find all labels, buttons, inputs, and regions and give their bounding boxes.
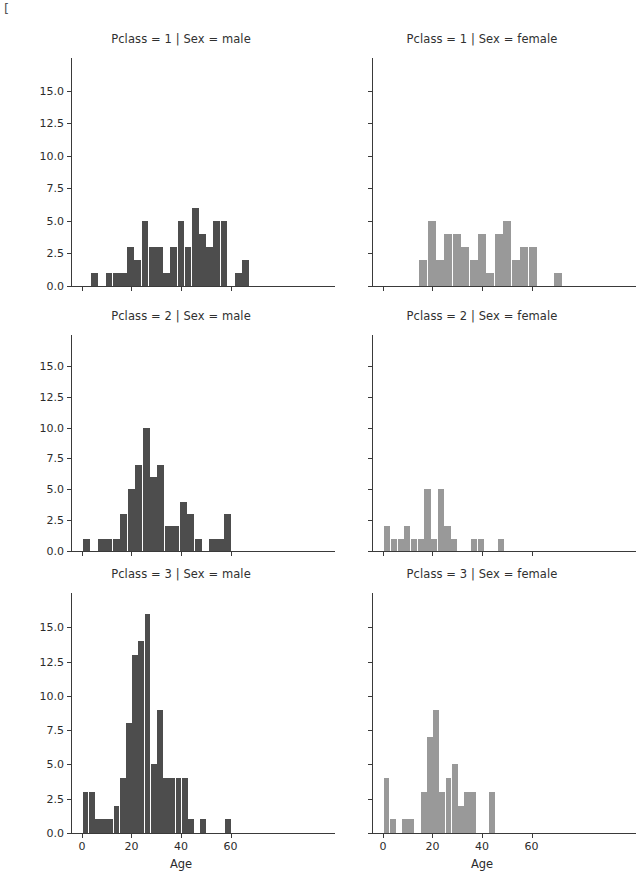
histogram-bar xyxy=(213,221,220,286)
histogram-bar xyxy=(529,247,537,286)
y-tick-mark xyxy=(368,286,373,287)
histogram-bar xyxy=(390,819,396,833)
y-tick-label: 5.0 xyxy=(47,214,65,227)
histogram-bar xyxy=(235,273,242,286)
subplot-pclass3-male: Pclass = 3 | Sex = male0.02.55.07.510.01… xyxy=(72,593,290,833)
y-tick-mark xyxy=(368,458,373,459)
x-tick-mark xyxy=(432,833,433,838)
histogram-bar xyxy=(478,539,484,551)
y-tick-mark xyxy=(368,520,373,521)
plot-area xyxy=(373,593,591,833)
histogram-bar xyxy=(402,819,408,833)
plot-area xyxy=(72,335,290,551)
x-tick-mark xyxy=(131,551,132,556)
y-tick-label: 15.0 xyxy=(40,84,65,97)
x-tick-mark xyxy=(383,286,384,291)
histogram-bar xyxy=(478,234,486,286)
x-tick-mark xyxy=(131,833,132,838)
plot-area xyxy=(72,593,290,833)
histogram-bar xyxy=(145,614,151,833)
x-tick-mark xyxy=(482,551,483,556)
histogram-bar xyxy=(424,489,430,551)
y-tick-mark xyxy=(67,833,72,834)
histogram-bar xyxy=(135,465,142,551)
x-tick-mark xyxy=(432,551,433,556)
y-tick-mark xyxy=(67,428,72,429)
x-tick-mark xyxy=(181,286,182,291)
histogram-bar xyxy=(149,247,156,286)
y-tick-mark xyxy=(67,366,72,367)
y-axis-spine xyxy=(372,593,373,833)
plot-area xyxy=(373,335,591,551)
y-tick-label: 5.0 xyxy=(47,483,65,496)
histogram-bar xyxy=(151,764,157,833)
x-tick-mark xyxy=(383,551,384,556)
y-tick-mark xyxy=(67,458,72,459)
histogram-bar xyxy=(470,260,478,286)
histogram-bar xyxy=(489,792,495,833)
histogram-bar xyxy=(471,539,477,551)
x-tick-mark xyxy=(482,833,483,838)
histogram-bar xyxy=(453,234,461,286)
histogram-bar xyxy=(113,273,120,286)
x-tick-mark xyxy=(532,833,533,838)
histogram-bar xyxy=(98,539,105,551)
x-axis-spine xyxy=(372,833,636,834)
subplot-pclass2-female: Pclass = 2 | Sex = female xyxy=(373,335,591,551)
y-tick-mark xyxy=(67,253,72,254)
histogram-bar xyxy=(199,234,206,286)
x-tick-mark xyxy=(231,833,232,838)
x-tick-mark xyxy=(131,286,132,291)
x-tick-mark xyxy=(532,286,533,291)
histogram-bar xyxy=(498,539,504,551)
y-axis-spine xyxy=(71,593,72,833)
y-tick-mark xyxy=(67,551,72,552)
histogram-bar xyxy=(180,502,187,551)
x-tick-mark xyxy=(82,551,83,556)
histogram-bar xyxy=(461,247,469,286)
y-tick-label: 2.5 xyxy=(47,247,65,260)
y-tick-mark xyxy=(368,730,373,731)
y-tick-label: 10.0 xyxy=(40,149,65,162)
histogram-bar xyxy=(458,806,464,833)
histogram-bar xyxy=(195,539,202,551)
subplot-title: Pclass = 2 | Sex = female xyxy=(373,309,591,323)
y-tick-label: 0.0 xyxy=(47,545,65,558)
y-tick-mark xyxy=(67,286,72,287)
y-tick-mark xyxy=(368,764,373,765)
y-tick-label: 7.5 xyxy=(47,724,65,737)
histogram-bar xyxy=(428,221,436,286)
plot-area xyxy=(373,58,591,286)
histogram-bar xyxy=(120,514,127,551)
histogram-bar xyxy=(91,273,98,286)
histogram-bar xyxy=(464,792,470,833)
y-tick-mark xyxy=(67,397,72,398)
histogram-bar xyxy=(169,778,175,833)
histogram-bar xyxy=(242,260,249,286)
y-tick-mark xyxy=(67,156,72,157)
histogram-bar xyxy=(217,539,224,551)
y-tick-label: 2.5 xyxy=(47,792,65,805)
y-tick-mark xyxy=(368,662,373,663)
y-tick-mark xyxy=(368,397,373,398)
histogram-bar xyxy=(127,247,134,286)
histogram-bar xyxy=(101,819,107,833)
y-tick-label: 2.5 xyxy=(47,514,65,527)
histogram-bar xyxy=(224,514,231,551)
histogram-bar xyxy=(163,273,170,286)
y-tick-label: 5.0 xyxy=(47,758,65,771)
histogram-bar xyxy=(165,526,172,551)
subplot-title: Pclass = 3 | Sex = female xyxy=(373,567,591,581)
y-tick-label: 12.5 xyxy=(40,117,65,130)
histogram-bar xyxy=(408,819,414,833)
histogram-bar xyxy=(126,723,132,833)
histogram-bar xyxy=(132,655,138,833)
histogram-bar xyxy=(411,539,417,551)
x-tick-label: 20 xyxy=(425,840,439,853)
histogram-bar xyxy=(163,778,169,833)
y-axis-spine xyxy=(71,335,72,551)
histogram-bar xyxy=(83,539,90,551)
histogram-bar xyxy=(200,819,206,833)
y-axis-spine xyxy=(372,58,373,286)
histogram-bar xyxy=(433,710,439,833)
